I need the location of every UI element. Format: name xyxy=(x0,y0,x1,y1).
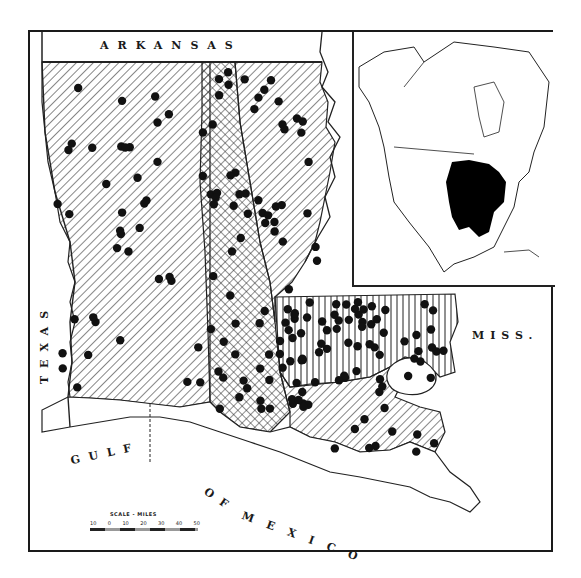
inset-north-america xyxy=(352,32,555,287)
scale-tick: 10 xyxy=(90,520,96,526)
scale-tick: 10 xyxy=(122,520,128,526)
north-america-outline xyxy=(354,32,555,285)
scale-ticks: 1001020304050 xyxy=(90,520,200,526)
scale-tick: 0 xyxy=(108,520,111,526)
scale-tick: 30 xyxy=(158,520,164,526)
scale-tick: 50 xyxy=(194,520,200,526)
label-miss: MISS. xyxy=(472,329,538,342)
label-texas: TEXAS xyxy=(38,303,51,384)
scale-tick: 20 xyxy=(140,520,146,526)
label-arkansas: ARKANSAS xyxy=(100,39,242,52)
scale-tick: 40 xyxy=(176,520,182,526)
scale-bar xyxy=(90,528,198,531)
scale-title: SCALE - MILES xyxy=(110,511,157,517)
map-frame: ARKANSAS TEXAS MISS. GULF OF MEXICO SCAL… xyxy=(28,30,553,552)
